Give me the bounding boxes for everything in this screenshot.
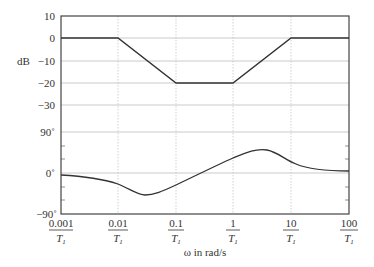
denominator: T1 — [228, 232, 238, 246]
x-tick-0.001: 0.001 T1 — [49, 217, 74, 246]
tick-10: 10 — [44, 10, 56, 22]
x-axis-title: ω in rad/s — [184, 246, 227, 258]
denominator: T1 — [344, 232, 354, 246]
x-tick-100: 100 T1 — [340, 217, 358, 246]
bode-plot: 10 0 −10 −20 −30 90˚ 0˚ −90˚ dB 0.001 T1… — [0, 0, 374, 267]
y-axis-label: dB — [17, 55, 30, 67]
numerator: 0.001 — [49, 217, 74, 229]
numerator: 0.1 — [169, 217, 183, 229]
tick-0: 0 — [50, 32, 56, 44]
vertical-grid — [118, 16, 291, 214]
denominator: T1 — [113, 232, 123, 246]
y-tick-labels: 10 0 −10 −20 −30 90˚ 0˚ −90˚ — [36, 10, 57, 220]
x-tick-labels: 0.001 T1 0.01 T1 0.1 T1 1 T1 10 T1 100 T… — [49, 217, 358, 246]
plot-frame — [61, 16, 349, 214]
x-tick-10: 10 T1 — [283, 217, 299, 246]
tick-minus20: −20 — [38, 77, 56, 89]
tick-0deg: 0˚ — [46, 167, 55, 179]
phase-curve — [61, 150, 349, 195]
grid — [61, 38, 349, 173]
numerator: 1 — [230, 217, 236, 229]
denominator: T1 — [286, 232, 296, 246]
x-tick-0.1: 0.1 T1 — [168, 217, 184, 246]
numerator: 0.01 — [108, 217, 127, 229]
tick-minus10: −10 — [38, 55, 56, 67]
denominator: T1 — [171, 232, 181, 246]
tick-minus30: −30 — [38, 99, 56, 111]
x-tick-0.01: 0.01 T1 — [108, 217, 128, 246]
numerator: 10 — [286, 217, 298, 229]
denominator: T1 — [56, 232, 66, 246]
tick-90deg: 90˚ — [40, 126, 55, 138]
x-tick-1: 1 T1 — [226, 217, 240, 246]
magnitude-curve — [61, 38, 349, 83]
numerator: 100 — [341, 217, 358, 229]
